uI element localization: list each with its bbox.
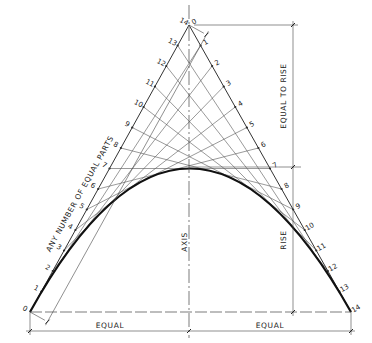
left-number: 0: [21, 304, 29, 313]
right-number: 1: [202, 38, 210, 47]
right-number: 7: [271, 161, 279, 170]
left-number: 13: [167, 37, 179, 48]
label-equal-left: EQUAL: [96, 321, 125, 330]
dimension-lines: [26, 5, 355, 338]
label-rise: RISE: [279, 230, 288, 249]
right-number: 8: [283, 181, 291, 190]
right-number: 4: [236, 99, 244, 108]
left-dimension-line: [46, 31, 209, 325]
label-equal-to-rise: EQUAL TO RISE: [279, 63, 288, 128]
left-number: 1: [32, 284, 40, 293]
right-number: 5: [248, 120, 256, 129]
left-number: 11: [144, 78, 156, 89]
left-number: 10: [133, 98, 145, 109]
right-number: 2: [213, 58, 221, 67]
label-axis: AXIS: [180, 232, 189, 252]
dimension-tick: [204, 33, 208, 37]
right-number: 3: [225, 79, 233, 88]
label-equal-right: EQUAL: [256, 321, 285, 330]
right-number: 14: [350, 303, 362, 315]
extension-line: [30, 312, 45, 320]
parabola-diagram: 0123456789101112131401234567891011121314…: [0, 0, 372, 343]
right-number: 6: [260, 140, 268, 149]
left-number: 9: [123, 120, 131, 129]
dimension-tick: [45, 320, 49, 324]
left-number: 2: [44, 263, 52, 272]
left-number: 12: [155, 57, 167, 68]
right-number: 9: [294, 202, 302, 211]
